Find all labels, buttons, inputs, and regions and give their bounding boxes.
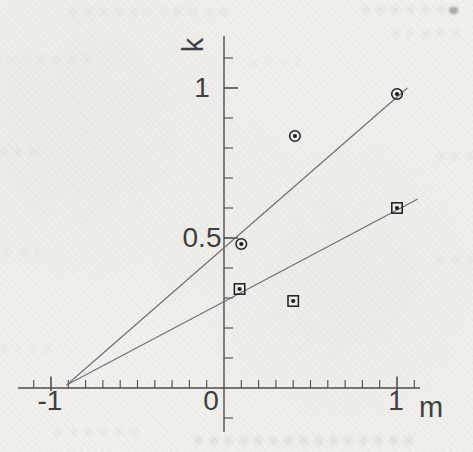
marker-center-dot [293, 134, 297, 138]
x-tick-label--1: -1 [38, 385, 63, 416]
shallow-fit-line [67, 199, 418, 385]
marker-center-dot [239, 242, 243, 246]
marker-center-dot [237, 287, 241, 291]
y-tick-label-1: 1 [194, 72, 210, 103]
x-tick-label-0: 0 [203, 385, 219, 416]
y-axis-title: k [177, 37, 209, 52]
steep-fit-line [67, 88, 408, 385]
marker-center-dot [395, 206, 399, 210]
marker-center-dot [291, 299, 295, 303]
marker-center-dot [395, 92, 399, 96]
x-tick-label-1: 1 [388, 385, 404, 416]
scanned-book-page: k m -1010.51 [0, 0, 473, 452]
x-axis-title: m [419, 391, 443, 423]
y-tick-label-0.5: 0.5 [183, 222, 222, 253]
scatter-plot-canvas: k m -1010.51 [0, 0, 473, 452]
